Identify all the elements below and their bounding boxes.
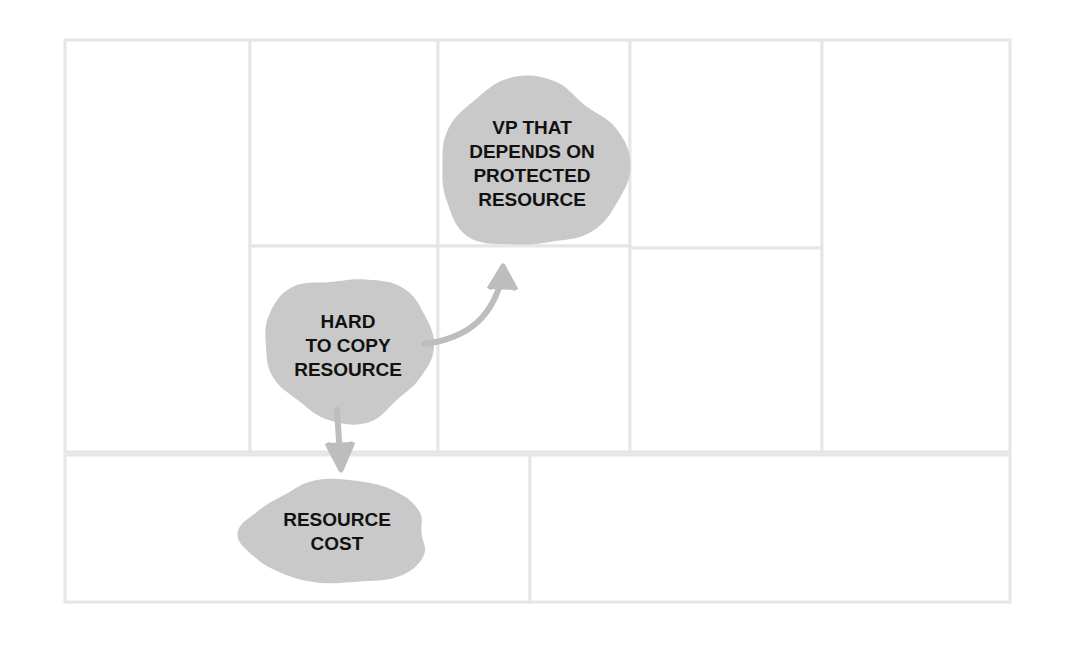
blob-resource-cost-label-line: COST xyxy=(311,533,364,554)
cell-col4-bottom xyxy=(630,248,822,452)
cell-col4-top xyxy=(630,40,822,248)
blob-vp-that-depends-on-protected-resource-label-line: PROTECTED xyxy=(473,165,590,186)
diagram-canvas: VP THATDEPENDS ONPROTECTEDRESOURCEHARDTO… xyxy=(0,0,1065,649)
blob-hard-to-copy-resource-label-line: HARD xyxy=(321,311,376,332)
cell-col2-top xyxy=(250,40,438,246)
blob-hard-to-copy-resource-label-line: TO COPY xyxy=(305,335,390,356)
cell-col1-tall xyxy=(65,40,250,452)
blob-vp-that-depends-on-protected-resource-label-line: DEPENDS ON xyxy=(469,141,595,162)
cell-col5-tall xyxy=(822,40,1010,452)
blob-vp-that-depends-on-protected-resource-label-line: RESOURCE xyxy=(478,189,586,210)
cell-col3-bottom xyxy=(438,246,630,452)
blob-resource-cost-label-line: RESOURCE xyxy=(283,509,391,530)
diagram-svg: VP THATDEPENDS ONPROTECTEDRESOURCEHARDTO… xyxy=(0,0,1065,649)
cell-bottom-right xyxy=(530,455,1010,602)
blob-hard-to-copy-resource-label-line: RESOURCE xyxy=(294,359,402,380)
blob-vp-that-depends-on-protected-resource-label-line: VP THAT xyxy=(492,117,572,138)
